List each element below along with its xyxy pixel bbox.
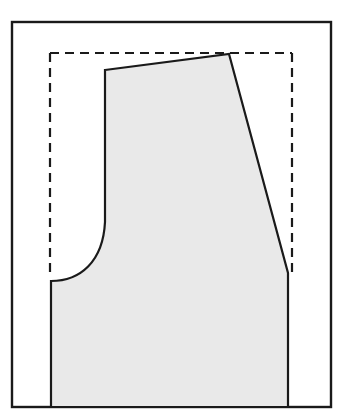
pattern-diagram-svg	[0, 0, 344, 420]
figure-root	[0, 0, 344, 420]
